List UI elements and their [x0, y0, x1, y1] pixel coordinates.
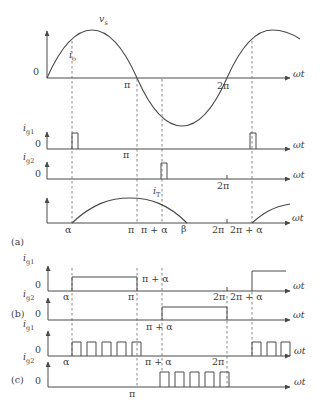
- iT-current-humps: [72, 198, 290, 223]
- panel-ig1-b: [48, 266, 290, 291]
- ig1-b-two-pi-plus-alpha-tick-label: 2π + α: [230, 292, 263, 302]
- ig1-a-omega-t-label: ωt: [293, 140, 305, 150]
- ig2-c-zero-label: 0: [35, 376, 41, 386]
- ig2-b-gate-block: [162, 307, 227, 320]
- ig1-c-zero-label: 0: [35, 345, 41, 355]
- panel-ig2-a: [47, 162, 290, 179]
- iT-pi-tick-label: π: [128, 225, 134, 235]
- ig2-b-pi-plus-alpha-tick-label: π + α: [146, 322, 173, 332]
- dashed-lines-a: [72, 41, 252, 223]
- ig1-a-zero-label: 0: [35, 139, 41, 149]
- iT-two-pi-plus-alpha-tick-label: 2π + α: [230, 225, 263, 235]
- io-label: io: [69, 50, 76, 62]
- ig2-c-pi-tick-label: π: [129, 389, 135, 399]
- ig1-b-axis-label: ig1: [23, 253, 34, 265]
- ig2-c-omega-t-label: ωt: [294, 377, 306, 387]
- ig2-a-zero-label: 0: [35, 169, 41, 179]
- iT-pi-plus-alpha-tick-label: π + α: [141, 225, 168, 235]
- ig1-a-pi-tick-label: π: [123, 150, 129, 160]
- ig2-a-two-pi-tick-label: 2π: [217, 181, 229, 191]
- ig2-c-axis-label: ig2: [23, 352, 34, 364]
- thyristor-gating-waveform-figure: 0 io vs π 2π ωt ig1 0 π ωt ig2 0 2π ωt i…: [0, 0, 324, 418]
- iT-omega-t-label: ωt: [292, 213, 304, 223]
- ig1-b-pi-tick-label: π: [128, 292, 134, 302]
- ig1-b-alpha-tick-label: α: [63, 292, 69, 302]
- ig2-a-omega-t-label: ωt: [293, 170, 305, 180]
- ig1-c-two-pi-tick-label: 2π: [212, 357, 224, 367]
- ig2-b-axis-label: ig2: [23, 289, 34, 301]
- panel-ig1-a: [47, 132, 290, 149]
- panel-vs: [47, 30, 300, 126]
- panel-ig1-c: [48, 331, 290, 356]
- ig1-c-alpha-tick-label: α: [63, 357, 69, 367]
- ig1-a-axis-label: ig1: [23, 123, 34, 135]
- iT-beta-tick-label: β: [181, 224, 187, 234]
- vs-two-pi-tick-label: 2π: [217, 81, 229, 91]
- ig2-a-axis-label: ig2: [23, 152, 34, 164]
- iT-label: iT: [153, 186, 160, 198]
- ig2-b-zero-label: 0: [35, 309, 41, 319]
- ig1-c-pulse-train: [72, 342, 290, 356]
- vs-omega-t-label: ωt: [293, 69, 305, 79]
- vs-label: vs: [99, 14, 108, 26]
- ig1-c-pi-plus-alpha-tick-label: π + α: [145, 357, 172, 367]
- iT-alpha-tick-label: α: [65, 225, 71, 235]
- panel-a-label: (a): [11, 237, 24, 247]
- ig2-c-pulse-train: [160, 372, 229, 387]
- ig1-b-zero-label: 0: [35, 280, 41, 290]
- ig1-b-two-pi-tick-label: 2π: [213, 292, 225, 302]
- iT-two-pi-tick-label: 2π: [212, 225, 224, 235]
- ig1-a-pulses: [72, 133, 256, 149]
- ig1-c-axis-label: ig1: [23, 319, 34, 331]
- vs-pi-tick-label: π: [124, 80, 130, 90]
- panel-iT: [47, 198, 290, 223]
- vs-origin-zero-label: 0: [33, 67, 39, 77]
- panel-c-label: (c): [11, 375, 24, 385]
- ig1-b-pi-plus-alpha-label: π + α: [142, 274, 169, 284]
- ig2-b-omega-t-label: ωt: [293, 310, 305, 320]
- ig1-c-omega-t-label: ωt: [294, 346, 306, 356]
- ig1-b-omega-t-label: ωt: [293, 281, 305, 291]
- ig1-b-gate-blocks: [72, 271, 286, 291]
